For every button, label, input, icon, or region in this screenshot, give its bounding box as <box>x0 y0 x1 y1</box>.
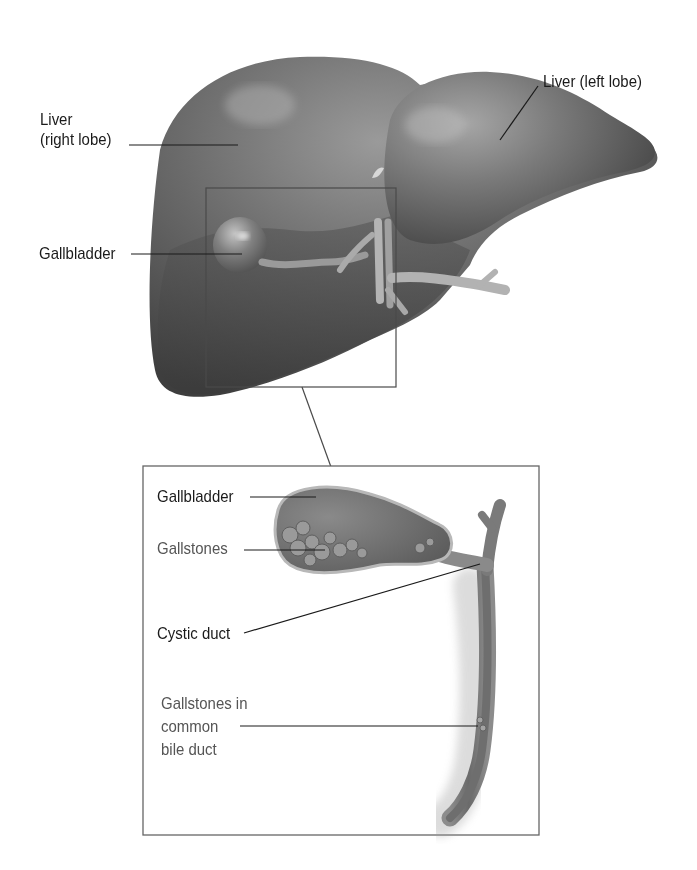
label-line: Cystic duct <box>157 624 230 644</box>
label-line: Liver (left lobe) <box>543 72 642 92</box>
liver-gallbladder-diagram: Liver (right lobe) Gallbladder Liver (le… <box>0 0 697 870</box>
label-line: Gallstones in <box>161 692 247 715</box>
inset-connector-line <box>302 387 331 467</box>
label-liver-right-lobe: Liver (right lobe) <box>40 110 112 150</box>
label-inset-gallbladder: Gallbladder <box>157 487 234 507</box>
label-line: (right lobe) <box>40 130 112 150</box>
liver-left-lobe-shape <box>384 72 655 244</box>
label-line: bile duct <box>161 738 247 761</box>
gallbladder-in-situ <box>213 217 267 273</box>
liver-main <box>150 57 658 397</box>
label-line: Gallstones <box>157 539 228 559</box>
label-line: common <box>161 715 247 738</box>
label-cystic-duct: Cystic duct <box>157 624 230 644</box>
label-line: Gallbladder <box>157 487 234 507</box>
label-gallstones: Gallstones <box>157 539 228 559</box>
label-line: Liver <box>40 110 112 130</box>
label-liver-left-lobe: Liver (left lobe) <box>543 72 642 92</box>
label-gallbladder: Gallbladder <box>39 244 116 264</box>
label-line: Gallbladder <box>39 244 116 264</box>
label-gallstones-in-cbd: Gallstones in common bile duct <box>161 692 247 761</box>
